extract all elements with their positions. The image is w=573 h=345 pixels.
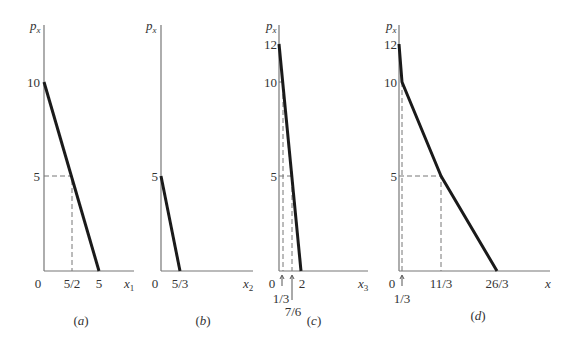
y-tick-12: 12	[384, 37, 397, 52]
x-axis-label: x	[544, 276, 551, 291]
demand-curves-figure: px 10 5 0 5/2 5 x1 (a) px 5 0 5/3 x2 (b)…	[0, 0, 573, 345]
x-tick-7-6: 7/6	[285, 304, 302, 319]
x-axis-label: x2	[242, 276, 253, 293]
x-axis-label: x1	[123, 276, 134, 293]
x-tick-5-2: 5/2	[64, 276, 81, 291]
x-tick-2: 2	[299, 276, 306, 291]
y-tick-10: 10	[27, 75, 40, 90]
y-tick-5: 5	[34, 169, 41, 184]
arrow-1-3	[400, 275, 404, 286]
x-tick-5: 5	[96, 276, 103, 291]
demand-curve	[161, 176, 180, 271]
y-tick-5: 5	[271, 169, 278, 184]
panel-caption: (d)	[470, 308, 485, 323]
arrow-7-6	[290, 275, 294, 300]
guide-line-2	[399, 176, 441, 271]
guide-line-2	[279, 176, 292, 271]
panel-a: px 10 5 0 5/2 5 x1 (a)	[27, 18, 134, 328]
x-tick-26-3: 26/3	[485, 276, 508, 291]
panel-c: px 12 10 5 0 2 1/3 7/6 x3 (c)	[264, 18, 369, 328]
x-tick-5-3: 5/3	[172, 276, 189, 291]
panel-caption: (a)	[73, 313, 88, 328]
y-axis-label: px	[145, 18, 157, 35]
panel-caption: (b)	[195, 313, 210, 328]
demand-curve	[399, 44, 497, 271]
demand-curve	[279, 44, 301, 271]
x-tick-11-3: 11/3	[430, 276, 453, 291]
panel-caption: (c)	[307, 313, 321, 328]
y-tick-10: 10	[264, 75, 277, 90]
guide-line	[44, 176, 72, 271]
y-axis-label: px	[265, 18, 277, 35]
y-axis-label: px	[29, 18, 41, 35]
panel-b: px 5 0 5/3 x2 (b)	[145, 18, 253, 328]
y-tick-10: 10	[384, 75, 397, 90]
x-axis-label: x3	[357, 276, 369, 293]
y-tick-5: 5	[152, 169, 159, 184]
y-axis-label: px	[385, 18, 397, 35]
x-tick-0: 0	[389, 276, 396, 291]
arrow-1-3	[280, 275, 284, 286]
x-tick-0: 0	[152, 276, 159, 291]
y-tick-5: 5	[391, 169, 398, 184]
panel-d: px 12 10 5 0 1/3 11/3 26/3 x (d)	[384, 18, 551, 323]
x-tick-0: 0	[269, 276, 276, 291]
y-tick-12: 12	[264, 37, 277, 52]
x-tick-0: 0	[35, 276, 42, 291]
x-tick-1-3: 1/3	[394, 291, 411, 306]
